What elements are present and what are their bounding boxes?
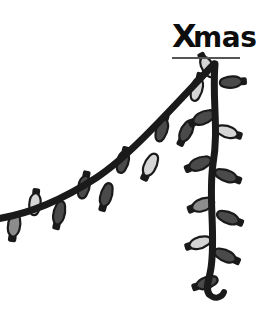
xmas-lights-chart: X mas [0,0,265,316]
xmas-label-rest: mas [193,21,256,54]
bulb-glass [220,76,243,89]
figure-canvas: X mas [0,0,265,316]
